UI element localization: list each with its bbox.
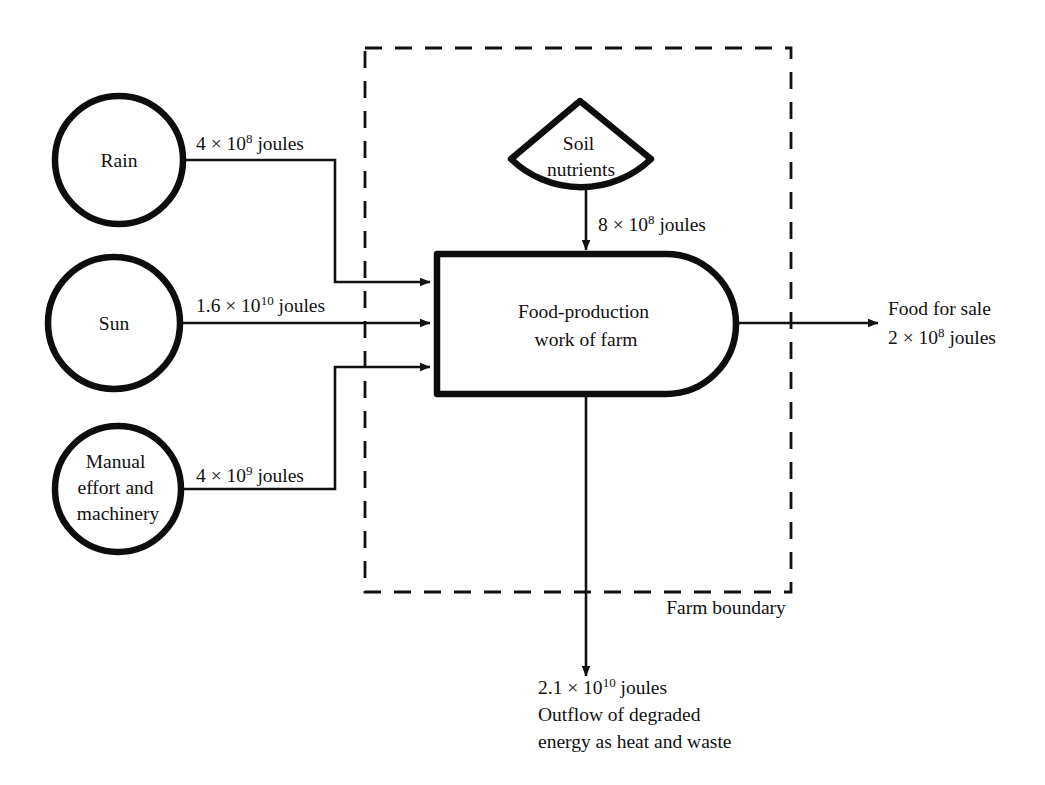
flow-label-soil-nutrients: 8 × 108 joules xyxy=(598,212,706,235)
manual-effort-label: Manual effort and machinery xyxy=(77,451,160,524)
degraded-energy-flow-exponent: 10 xyxy=(603,675,616,690)
output-label-food-for-sale: Food for sale 2 × 108 joules xyxy=(888,298,996,348)
manual-effort-label-line-3: machinery xyxy=(77,503,160,524)
degraded-energy-description-line-2: energy as heat and waste xyxy=(538,731,731,752)
food-for-sale-flow-unit: joules xyxy=(945,327,996,348)
farm-boundary-label: Farm boundary xyxy=(666,597,786,618)
flow-label-soil-nutrients-unit: joules xyxy=(655,214,706,235)
flow-label-sun: 1.6 × 1010 joules xyxy=(196,293,325,316)
flow-label-sun-exponent: 10 xyxy=(261,293,274,308)
node-food-production: Food-production work of farm xyxy=(437,254,736,394)
output-label-degraded-energy: 2.1 × 1010 joules Outflow of degraded en… xyxy=(538,675,731,752)
food-for-sale-value: 2 × 108 joules xyxy=(888,325,996,348)
node-sun: Sun xyxy=(48,257,180,389)
flow-line-rain xyxy=(185,160,430,282)
food-production-label-line-2: work of farm xyxy=(535,329,638,350)
node-manual-effort: Manual effort and machinery xyxy=(55,426,181,552)
diagram-canvas: Farm boundary Rain Sun Manual xyxy=(0,0,1045,785)
food-production-label-line-1: Food-production xyxy=(518,301,649,322)
flow-label-manual-value: 4 × 10 xyxy=(196,465,246,486)
food-production-shape xyxy=(437,254,736,394)
soil-nutrients-label-line-1: Soil xyxy=(563,133,595,154)
soil-nutrients-label-line-2: nutrients xyxy=(547,159,615,180)
flow-label-manual-unit: joules xyxy=(253,465,304,486)
node-soil-nutrients: Soil nutrients xyxy=(511,101,651,187)
food-for-sale-title: Food for sale xyxy=(888,298,991,319)
degraded-energy-flow-value: 2.1 × 10 xyxy=(538,677,603,698)
rain-label: Rain xyxy=(101,150,138,171)
flow-label-soil-nutrients-value: 8 × 10 xyxy=(598,214,648,235)
flow-label-manual: 4 × 109 joules xyxy=(196,463,304,486)
manual-effort-label-line-2: effort and xyxy=(78,477,154,498)
sun-label: Sun xyxy=(99,313,130,334)
degraded-energy-description: Outflow of degraded energy as heat and w… xyxy=(538,704,731,752)
degraded-energy-value: 2.1 × 1010 joules xyxy=(538,675,667,698)
flow-label-rain-unit: joules xyxy=(253,133,304,154)
flow-label-rain-value: 4 × 10 xyxy=(196,133,246,154)
degraded-energy-flow-unit: joules xyxy=(616,677,667,698)
flow-label-rain: 4 × 108 joules xyxy=(196,131,304,154)
flow-label-sun-unit: joules xyxy=(274,295,325,316)
node-rain: Rain xyxy=(55,96,183,224)
energy-flow-diagram: Farm boundary Rain Sun Manual xyxy=(0,0,1045,785)
degraded-energy-description-line-1: Outflow of degraded xyxy=(538,704,701,725)
food-for-sale-flow-value: 2 × 10 xyxy=(888,327,938,348)
flow-label-sun-value: 1.6 × 10 xyxy=(196,295,261,316)
manual-effort-label-line-1: Manual xyxy=(86,451,146,472)
